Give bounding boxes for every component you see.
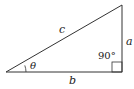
angle-arc (25, 65, 26, 72)
label-adjacent: b (69, 74, 76, 87)
right-triangle-diagram: c a 90° θ b (0, 0, 134, 89)
triangle (6, 5, 122, 72)
label-right-angle: 90° (98, 50, 116, 61)
label-hypotenuse: c (59, 23, 65, 36)
label-angle: θ (30, 60, 36, 71)
label-opposite: a (126, 35, 133, 48)
right-angle-marker (112, 62, 122, 72)
